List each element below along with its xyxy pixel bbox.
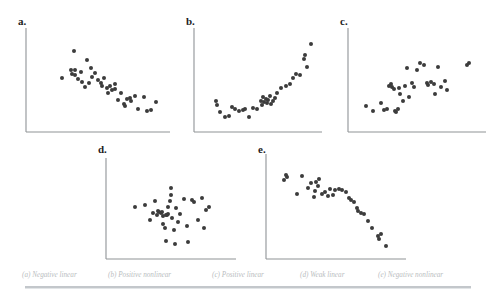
data-point — [295, 192, 299, 196]
data-point — [433, 92, 437, 96]
data-point — [436, 65, 440, 69]
data-point — [215, 103, 219, 107]
data-point — [443, 79, 447, 83]
data-point — [163, 226, 167, 230]
data-point — [422, 63, 426, 67]
data-point — [202, 226, 206, 230]
data-point — [326, 194, 330, 198]
data-point — [379, 232, 383, 236]
caption-item-a: (a) Negative linear — [22, 271, 77, 279]
data-point — [123, 104, 127, 108]
data-point — [133, 94, 137, 98]
data-point — [415, 68, 419, 72]
data-point — [366, 219, 370, 223]
data-point — [93, 71, 97, 75]
data-point — [196, 218, 200, 222]
data-point — [398, 92, 402, 96]
data-point — [392, 87, 396, 91]
data-point — [439, 85, 443, 89]
data-point — [247, 115, 251, 119]
panel-b: b. — [186, 16, 326, 139]
data-point — [113, 82, 117, 86]
data-point — [432, 82, 436, 86]
data-point — [148, 218, 152, 222]
data-point — [207, 205, 211, 209]
data-point — [412, 85, 416, 89]
data-point — [227, 114, 231, 118]
data-point — [169, 186, 173, 190]
data-point — [285, 175, 289, 179]
panel-e: e. — [258, 144, 408, 266]
panel-e-plot-area — [266, 154, 406, 259]
data-point — [83, 85, 87, 89]
data-point — [106, 91, 110, 95]
data-point — [80, 80, 84, 84]
caption-item-e: (e) Negative nonlinear — [378, 271, 443, 279]
data-point — [298, 73, 302, 77]
data-point — [255, 107, 259, 111]
data-point — [362, 212, 366, 216]
data-point — [133, 205, 137, 209]
data-point — [70, 72, 74, 76]
data-point — [370, 226, 374, 230]
data-point — [328, 187, 332, 191]
data-point — [352, 200, 356, 204]
data-point — [344, 190, 348, 194]
data-point — [73, 68, 77, 72]
panel-b-plot-area — [194, 28, 322, 132]
data-point — [397, 86, 401, 90]
panel-a: a. — [18, 16, 176, 139]
data-point — [243, 107, 247, 111]
data-point — [309, 42, 313, 46]
data-point — [407, 95, 411, 99]
data-point — [405, 66, 409, 70]
data-point — [142, 95, 146, 99]
data-point — [316, 184, 320, 188]
data-point — [445, 88, 449, 92]
panel-c-plot-area — [348, 28, 486, 132]
panel-d-plot-area — [106, 158, 236, 259]
data-point — [317, 177, 321, 181]
data-point — [116, 98, 120, 102]
bottom-divider-shadow — [25, 288, 471, 289]
data-point — [200, 196, 204, 200]
data-point — [309, 181, 313, 185]
caption-item-c: (c) Positive linear — [212, 271, 264, 279]
data-point — [89, 66, 93, 70]
data-point — [333, 188, 337, 192]
data-point — [364, 104, 368, 108]
data-point — [164, 239, 168, 243]
data-point — [305, 65, 309, 69]
panel-d: d. — [98, 144, 238, 266]
data-point — [149, 108, 153, 112]
data-point — [371, 109, 375, 113]
data-point — [312, 195, 316, 199]
data-point — [401, 99, 405, 103]
caption-item-b: (b) Positive nonlinear — [108, 271, 171, 279]
data-point — [102, 76, 106, 80]
data-point — [85, 58, 89, 62]
data-point — [403, 84, 407, 88]
data-point — [300, 174, 304, 178]
data-point — [306, 186, 310, 190]
data-point — [87, 81, 91, 85]
data-point — [76, 77, 80, 81]
data-point — [260, 103, 264, 107]
data-point — [313, 189, 317, 193]
data-point — [186, 240, 190, 244]
data-point — [268, 94, 272, 98]
data-point — [176, 220, 180, 224]
data-point — [303, 53, 307, 57]
data-point — [169, 193, 173, 197]
data-point — [331, 193, 335, 197]
data-point — [160, 210, 164, 214]
data-point — [113, 87, 117, 91]
data-point — [340, 188, 344, 192]
data-point — [218, 110, 222, 114]
panel-a-plot-area — [26, 28, 170, 132]
data-point — [154, 100, 158, 104]
caption-item-d: (d) Weak linear — [300, 271, 344, 279]
data-point — [185, 224, 189, 228]
scatterplot-figure: a. b. c. d. e. — [0, 0, 493, 299]
panel-c: c. — [340, 16, 488, 139]
